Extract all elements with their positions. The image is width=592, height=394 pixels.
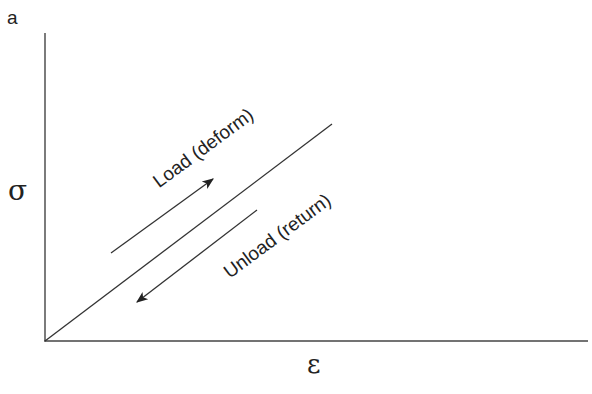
x-axis-label-epsilon: ε [307, 349, 320, 379]
stress-strain-diagram: a σ ε Load (deform) Unload (return) [0, 0, 592, 394]
load-deform-label: Load (deform) [149, 104, 257, 192]
panel-label: a [7, 7, 18, 28]
y-axis-label-sigma: σ [8, 174, 27, 207]
unload-return-label: Unload (return) [220, 189, 335, 282]
